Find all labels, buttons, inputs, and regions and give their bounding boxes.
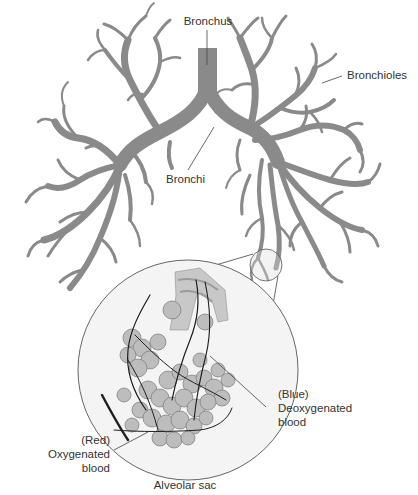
label-deoxygenated-line1: (Blue) xyxy=(278,387,352,401)
label-bronchus: Bronchus xyxy=(183,14,233,28)
label-deoxygenated-line2: Deoxygenated xyxy=(278,401,352,415)
label-bronchi: Bronchi xyxy=(166,172,205,186)
label-alveolar-sac: Alveolar sac xyxy=(130,478,240,492)
alveolar-inset xyxy=(78,260,298,480)
label-deoxygenated-blood: (Blue) Deoxygenated blood xyxy=(278,387,352,429)
label-oxygenated-line1: (Red) xyxy=(30,433,110,447)
label-bronchioles: Bronchioles xyxy=(347,68,407,82)
label-deoxygenated-line3: blood xyxy=(278,415,352,429)
label-oxygenated-line3: blood xyxy=(30,461,110,475)
label-oxygenated-blood: (Red) Oxygenated blood xyxy=(30,433,110,475)
zoom-source-circle xyxy=(250,249,282,281)
label-oxygenated-line2: Oxygenated xyxy=(30,447,110,461)
